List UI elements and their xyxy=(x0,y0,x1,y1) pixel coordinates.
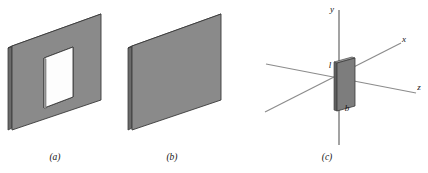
z-axis-label: z xyxy=(416,82,421,92)
panel-b-solid-plate: (b) xyxy=(128,14,221,163)
figure-container: (a) (b) y xyxy=(0,0,428,173)
y-axis-label: y xyxy=(329,4,334,14)
x-axis-label: x xyxy=(401,34,406,44)
plate-c-side-face xyxy=(334,62,337,111)
panel-c-caption: (c) xyxy=(322,152,333,163)
panel-a-caption: (a) xyxy=(49,152,60,163)
panel-a-plate-with-hole: (a) xyxy=(8,14,101,163)
panel-c-axes-plate: y x z l b (c) xyxy=(265,4,421,163)
plate-b-side-face xyxy=(128,46,132,130)
panel-b-caption: (b) xyxy=(166,152,177,163)
plate-b-front-face xyxy=(132,14,221,130)
plate-a-hole xyxy=(44,47,73,108)
length-label: l xyxy=(329,60,332,70)
plate-a-side-face xyxy=(8,46,12,130)
breadth-label: b xyxy=(345,103,350,113)
plate-a-hole-inner-edge xyxy=(44,58,46,109)
